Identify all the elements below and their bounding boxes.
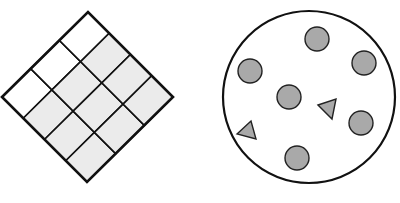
diagram-canvas — [0, 0, 400, 203]
circle-with-shapes — [223, 11, 395, 183]
gray-dot — [352, 51, 376, 75]
diagram-svg — [0, 0, 400, 203]
gray-dot — [305, 27, 329, 51]
gray-dot — [238, 59, 262, 83]
gray-dot — [349, 111, 373, 135]
gray-dot — [277, 85, 301, 109]
shaded-grid-diamond — [2, 12, 173, 182]
gray-dot — [285, 146, 309, 170]
